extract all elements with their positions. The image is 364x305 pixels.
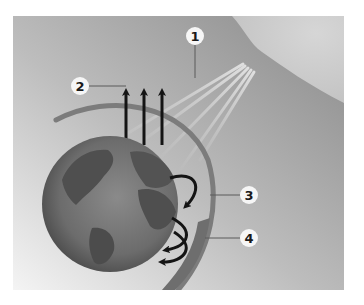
svg-text:3: 3 [244,188,253,203]
label-3: 3 [240,186,258,204]
label-2: 2 [71,77,89,95]
svg-text:4: 4 [244,231,253,246]
greenhouse-diagram: 1 2 3 4 [0,0,364,305]
svg-text:1: 1 [190,29,199,44]
label-1: 1 [186,27,204,45]
svg-text:2: 2 [75,79,84,94]
label-4: 4 [240,229,258,247]
earth-globe [42,136,178,272]
